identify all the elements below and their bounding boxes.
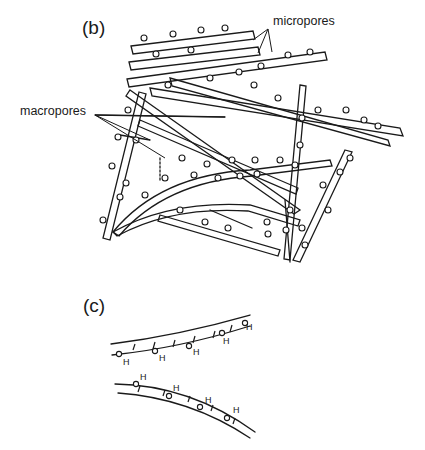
diagonal-ribbons (126, 78, 403, 214)
pore-structure-diagram (0, 0, 425, 450)
micropores-leader (253, 29, 272, 53)
h-label-lower-4: H (233, 405, 240, 415)
panel-c-label: (c) (83, 295, 105, 317)
lower-left-ribbons (113, 160, 332, 256)
h-label-lower-2: H (173, 383, 180, 393)
h-label-upper-5: H (246, 322, 253, 332)
macropores-callout: macropores (20, 104, 86, 118)
micropores-callout: micropores (273, 14, 335, 28)
h-label-lower-3: H (205, 395, 212, 405)
panel-b-label: (b) (82, 17, 105, 39)
h-label-upper-2: H (159, 353, 166, 363)
h-label-upper-3: H (193, 347, 200, 357)
panel-c-chains (111, 315, 255, 438)
graphitic-layer-stack (127, 31, 327, 87)
panel-b-network (95, 25, 403, 262)
h-label-lower-1: H (140, 372, 147, 382)
h-label-upper-1: H (123, 357, 130, 367)
h-label-upper-4: H (223, 336, 230, 346)
